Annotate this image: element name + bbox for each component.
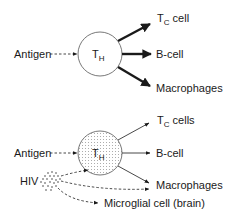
antigen-label: Antigen: [14, 48, 51, 60]
hiv-diagram: Antigen TH TC cells B-cell Macrophages H…: [14, 114, 223, 209]
microglial-label: Microglial cell (brain): [104, 197, 205, 209]
tc-cells-label: TC cells: [157, 114, 195, 129]
hiv-to-macrophages-arrow: [61, 181, 149, 189]
hiv-to-th-arrow: [61, 170, 88, 176]
antigen-label-2: Antigen: [14, 147, 51, 159]
tc-cell-label: TC cell: [157, 12, 189, 27]
hiv-to-microglial-arrow: [58, 188, 98, 203]
bcell-label-2: B-cell: [156, 147, 184, 159]
hiv-label: HIV: [20, 175, 39, 187]
bcell-label: B-cell: [156, 48, 184, 60]
arrow-to-tc-2: [118, 123, 149, 140]
diagram-canvas: Antigen TH TC cell B-cell Macrophages An…: [0, 0, 230, 223]
macrophages-label: Macrophages: [156, 82, 223, 94]
hiv-particles-icon: [40, 171, 60, 190]
arrow-to-tc: [118, 24, 150, 41]
arrow-to-macrophages-2: [118, 166, 149, 183]
macrophages-label-2: Macrophages: [156, 179, 223, 191]
normal-diagram: Antigen TH TC cell B-cell Macrophages: [14, 12, 223, 94]
arrow-to-macrophages: [118, 67, 150, 86]
